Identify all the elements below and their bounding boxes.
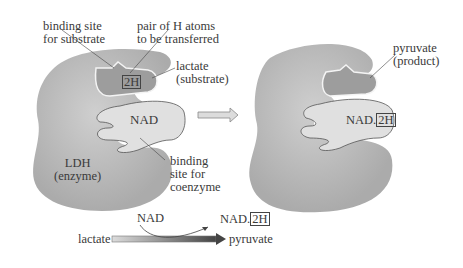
reaction-arrow-hollow [198, 108, 238, 122]
label-line: for substrate [43, 33, 105, 46]
ldh-diagram: binding site for substrate pair of H ato… [0, 0, 463, 268]
label-line: to be transferred [137, 33, 219, 46]
coenzyme-curve-arrow [140, 225, 208, 237]
label-line: coenzyme [170, 181, 221, 194]
reaction-arrow-head [216, 233, 226, 245]
label-2h-left: 2H [122, 75, 141, 89]
reaction-product: pyruvate [229, 233, 273, 246]
label-nad2h-right: NAD.2H [346, 113, 396, 127]
2h-box: 2H [250, 212, 269, 226]
label-pair-h-atoms: pair of H atoms to be transferred [137, 20, 219, 46]
label-line: (product) [393, 55, 440, 68]
nad-prefix: NAD. [220, 212, 250, 226]
label-line: (substrate) [176, 73, 229, 86]
label-binding-site-coenzyme: binding site for coenzyme [170, 155, 221, 194]
nad-prefix: NAD. [346, 113, 376, 127]
label-nad-left: NAD [130, 113, 158, 126]
label-lactate: lactate (substrate) [176, 60, 229, 86]
2h-box: 2H [376, 113, 395, 127]
label-ldh-enzyme: LDH (enzyme) [54, 157, 101, 183]
reaction-substrate: lactate [78, 233, 111, 246]
label-binding-site-substrate: binding site for substrate [43, 20, 105, 46]
reaction-coenzyme-in: NAD [137, 212, 164, 225]
reaction-coenzyme-out: NAD.2H [220, 212, 270, 226]
label-line: (enzyme) [54, 170, 101, 183]
2h-box: 2H [122, 75, 141, 89]
label-pyruvate-product: pyruvate (product) [393, 42, 440, 68]
